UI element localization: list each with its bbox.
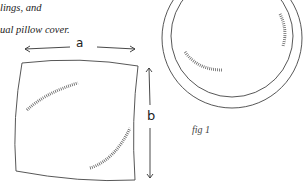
dimension-label-b: b <box>147 108 155 123</box>
square-pillow-cover <box>15 60 138 180</box>
round-shading <box>185 14 285 70</box>
dimension-arrow-b <box>146 68 153 178</box>
figure-caption: fig 1 <box>192 124 210 135</box>
pillow-diagram <box>0 0 303 187</box>
square-shading <box>27 83 130 168</box>
round-pillow-cover <box>162 0 302 108</box>
dimension-label-a: a <box>76 36 83 50</box>
